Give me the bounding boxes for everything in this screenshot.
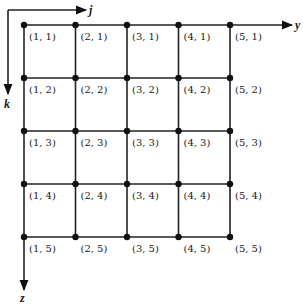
j-axis-label: j [87,3,93,17]
node-label: (2, 5) [81,243,108,254]
node-label: (5, 5) [235,243,262,254]
node-label: (3, 4) [132,190,159,201]
node-label: (3, 5) [132,243,159,254]
node-dot [72,22,78,28]
node-label: (3, 2) [132,84,159,95]
grid-node: (5, 2) [227,75,262,95]
node-dot [21,128,27,134]
node-label: (1, 1) [29,31,56,42]
node-label: (2, 4) [81,190,108,201]
node-dot [124,75,130,81]
node-dot [175,75,181,81]
grid-node: (5, 3) [227,128,262,148]
node-dot [21,22,27,28]
node-label: (4, 1) [184,31,211,42]
node-dot [124,181,130,187]
node-dot [72,128,78,134]
node-label: (1, 3) [29,137,56,148]
node-dot [124,22,130,28]
node-dot [227,22,233,28]
grid-node: (5, 4) [227,181,262,201]
y-axis-label: y [293,18,301,32]
node-label: (2, 3) [81,137,108,148]
grid-nodes: (1, 1)(2, 1)(3, 1)(4, 1)(5, 1)(1, 2)(2, … [21,22,262,254]
node-dot [227,128,233,134]
node-dot [175,128,181,134]
node-dot [72,181,78,187]
node-dot [175,234,181,240]
node-label: (4, 5) [184,243,211,254]
node-dot [227,234,233,240]
node-dot [21,234,27,240]
node-label: (2, 2) [81,84,108,95]
node-dot [72,75,78,81]
physical-axes: y z [19,18,301,304]
node-label: (5, 4) [235,190,262,201]
node-label: (3, 3) [132,137,159,148]
z-axis-label: z [19,291,25,304]
grid-node: (5, 5) [227,234,262,254]
node-label: (5, 2) [235,84,262,95]
node-dot [175,22,181,28]
node-label: (3, 1) [132,31,159,42]
node-label: (5, 1) [235,31,262,42]
node-dot [124,234,130,240]
node-label: (4, 2) [184,84,211,95]
grid-diagram: j k y z (1, 1)(2, 1)(3, 1)(4, 1)(5, 1)(1… [0,0,303,304]
node-label: (1, 5) [29,243,56,254]
node-dot [227,181,233,187]
node-label: (1, 2) [29,84,56,95]
node-dot [21,75,27,81]
node-label: (2, 1) [81,31,108,42]
node-label: (1, 4) [29,190,56,201]
node-dot [124,128,130,134]
k-axis-label: k [4,97,10,111]
node-label: (5, 3) [235,137,262,148]
node-dot [72,234,78,240]
node-label: (4, 4) [184,190,211,201]
node-dot [175,181,181,187]
node-label: (4, 3) [184,137,211,148]
node-dot [21,181,27,187]
node-dot [227,75,233,81]
